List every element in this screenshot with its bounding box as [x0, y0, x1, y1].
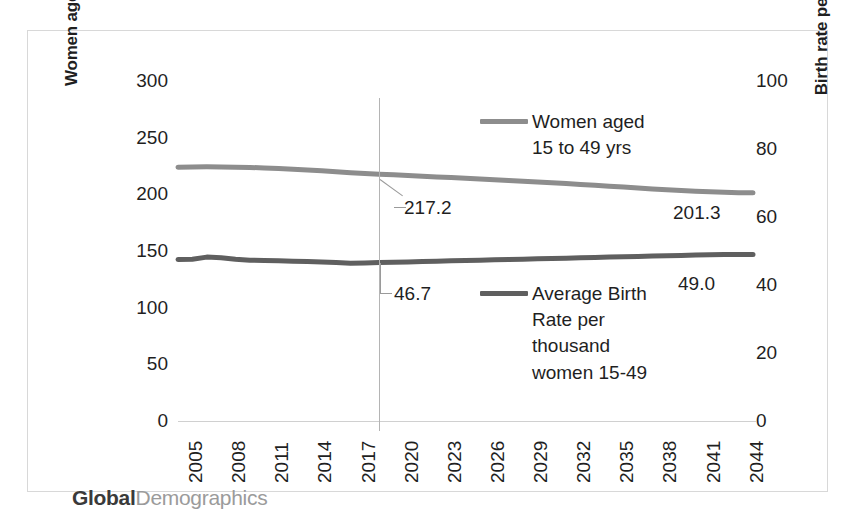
data-label-217: 217.2 — [404, 197, 452, 219]
x-tick-2005: 2005 — [185, 441, 207, 483]
x-tick-2041: 2041 — [703, 441, 725, 483]
legend-label-birth-rate: Average Birth Rate per thousand women 15… — [532, 281, 680, 386]
x-axis-line — [178, 421, 756, 422]
y-tick-left-50: 50 — [147, 352, 168, 376]
data-label-49-0: 49.0 — [678, 273, 715, 295]
x-tick-2038: 2038 — [659, 441, 681, 483]
series-line-women-aged — [178, 167, 753, 193]
x-tick-2011: 2011 — [271, 442, 293, 483]
x-tick-2032: 2032 — [573, 441, 595, 483]
y-tick-right-20: 20 — [756, 341, 777, 365]
series-line-birth-rate — [178, 254, 753, 263]
brand-secondary: Demographics — [136, 486, 268, 509]
x-tick-2035: 2035 — [616, 441, 638, 483]
x-tick-2008: 2008 — [228, 441, 250, 483]
y-tick-left-250: 250 — [136, 126, 168, 150]
y-tick-left-0: 0 — [157, 409, 168, 433]
y-tick-right-100: 100 — [756, 69, 788, 93]
legend-item-birth-rate[interactable]: Average Birth Rate per thousand women 15… — [480, 281, 680, 386]
x-axis-ticks: 2005200820112014201720202023202620292032… — [178, 427, 756, 489]
y-axis-right-title: Birth rate per thousand women 15-49 yrs. — [812, 0, 850, 119]
brand-logo: GlobalDemographics — [72, 486, 267, 510]
legend-swatch-women-aged — [480, 119, 528, 124]
y-tick-right-0: 0 — [756, 409, 767, 433]
chart-frame: Women aged 15 to 49 yrs. (000s) Birth ra… — [27, 30, 828, 492]
y-tick-left-150: 150 — [136, 239, 168, 263]
y-axis-left-title: Women aged 15 to 49 yrs. (000s) — [62, 0, 81, 123]
data-label-201-3: 201.3 — [673, 202, 721, 224]
y-tick-left-300: 300 — [136, 69, 168, 93]
x-tick-2029: 2029 — [530, 441, 552, 483]
y-tick-right-40: 40 — [756, 273, 777, 297]
y-tick-left-200: 200 — [136, 182, 168, 206]
y-tick-right-80: 80 — [756, 137, 777, 161]
x-tick-2044: 2044 — [746, 441, 768, 483]
legend-label-women-aged: Women aged 15 to 49 yrs — [532, 109, 690, 161]
data-label-46-7: 46.7 — [394, 283, 431, 305]
y-tick-left-100: 100 — [136, 296, 168, 320]
brand-primary: Global — [72, 486, 136, 509]
legend-swatch-birth-rate — [480, 291, 528, 296]
x-tick-2020: 2020 — [401, 441, 423, 483]
x-tick-2023: 2023 — [444, 441, 466, 483]
leader-line-46-vertical — [380, 263, 381, 293]
leader-line-46 — [380, 293, 392, 294]
y-tick-right-60: 60 — [756, 205, 777, 229]
x-tick-2017: 2017 — [358, 441, 380, 483]
x-tick-2014: 2014 — [314, 441, 336, 483]
x-tick-2026: 2026 — [487, 441, 509, 483]
legend-item-women-aged[interactable]: Women aged 15 to 49 yrs — [480, 109, 690, 161]
